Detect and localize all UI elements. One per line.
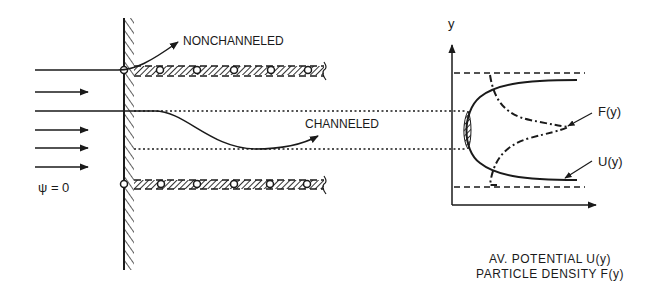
incident-beam-arrows <box>35 92 88 167</box>
graph-dashed-bounds <box>454 73 585 187</box>
y-axis-label: y <box>448 16 455 31</box>
caption: AV. POTENTIAL U(y) PARTICLE DENSITY F(y) <box>460 252 640 282</box>
graph-axes <box>452 45 596 205</box>
U-label: U(y) <box>598 154 623 169</box>
upper-atom-row <box>121 62 327 80</box>
caption-line-2: PARTICLE DENSITY F(y) <box>460 267 640 282</box>
lower-atom-row <box>121 176 327 194</box>
caption-line-1: AV. POTENTIAL U(y) <box>460 252 640 267</box>
F-label: F(y) <box>598 104 621 119</box>
psi-zero-label: ψ = 0 <box>38 180 69 195</box>
channeled-label: CHANNELED <box>305 117 379 131</box>
nonchanneled-label: NONCHANNELED <box>183 34 284 48</box>
density-curve-F <box>490 75 568 185</box>
F-leader-line <box>568 113 592 126</box>
crystal-surface-wall <box>124 18 134 270</box>
U-leader-line <box>565 161 592 178</box>
